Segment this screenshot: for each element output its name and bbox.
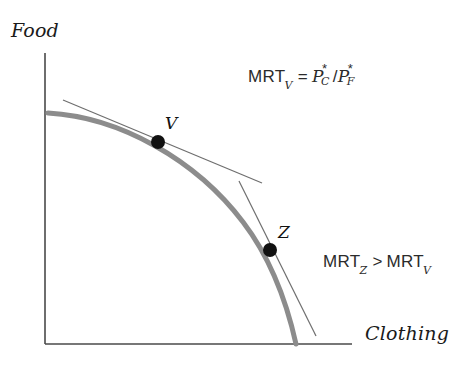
formula-mrt-v-lhs-subscript: V [284, 79, 292, 92]
formula-compare-right-subscript: V [423, 264, 431, 277]
formula-compare-left-base: MRT [323, 252, 360, 271]
formula-mrt-v-denominator-subscript: F [347, 75, 355, 88]
point-marker-v [151, 135, 165, 149]
formula-mrt-v-denominator-star: * [348, 61, 353, 76]
y-axis-label: Food [11, 19, 59, 41]
formula-mrt-v-numerator-subscript: C [321, 75, 330, 88]
formula-mrt-comparison: MRTZ>MRTV [323, 252, 432, 274]
point-label-v: V [165, 113, 177, 133]
formula-mrt-v-denominator: P*F [338, 66, 350, 87]
tangent-line-z [239, 181, 316, 336]
formula-mrt-v-numerator: P*C [312, 66, 324, 87]
formula-compare-right-base: MRT [387, 252, 424, 271]
formula-mrt-v-equals: = [298, 67, 308, 86]
point-label-z: Z [278, 222, 290, 242]
point-marker-z [263, 243, 277, 257]
formula-mrt-v-numerator-star: * [322, 61, 327, 76]
x-axis-label: Clothing [365, 322, 449, 344]
formula-mrt-v: MRTV=P*C/P*F [248, 66, 349, 89]
ppf-diagram: Food Clothing V Z MRTV=P*C/P*F MRTZ>MRTV [0, 0, 474, 380]
formula-compare-left-subscript: Z [359, 264, 367, 277]
production-possibility-frontier-curve [48, 113, 296, 344]
formula-compare-operator: > [372, 252, 382, 271]
formula-mrt-v-lhs: MRT [248, 67, 285, 86]
